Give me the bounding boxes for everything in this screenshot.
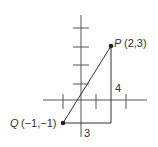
horizontal-leg-label: 3 [84,127,90,139]
point-p [109,44,114,49]
right-triangle [63,46,111,123]
point-p-name: P [114,37,122,49]
point-q [61,121,66,126]
coordinate-diagram: P (2,3) Q (−1,−1) 4 3 [0,0,158,147]
point-p-coords: (2,3) [124,37,147,49]
point-q-name: Q [10,117,19,129]
vertical-leg-label: 4 [115,82,121,94]
axes [43,15,147,137]
point-q-coords: (−1,−1) [21,117,56,129]
hypotenuse-pq [63,46,111,123]
